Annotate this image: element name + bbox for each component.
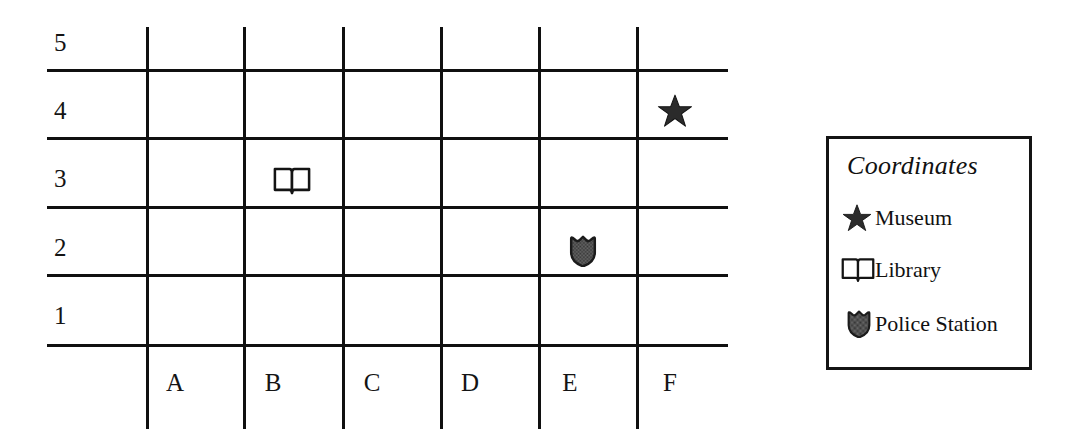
grid-line-vertical	[146, 27, 149, 429]
grid-line-vertical	[538, 27, 541, 429]
legend-label-police-station: Police Station	[875, 313, 998, 335]
legend-item-library: Library	[839, 253, 941, 287]
map-marker-police-station	[563, 233, 603, 273]
column-label-e: E	[550, 370, 590, 395]
book-icon	[839, 255, 875, 285]
coordinate-grid-map: 5 4 3 2 1 A B C D E F	[0, 0, 790, 442]
column-label-c: C	[352, 370, 392, 395]
legend-item-museum: Museum	[839, 201, 952, 235]
grid-line-horizontal	[47, 137, 728, 140]
legend-item-police-station: Police Station	[839, 307, 998, 341]
column-label-d: D	[450, 370, 490, 395]
grid-line-vertical	[342, 27, 345, 429]
column-label-f: F	[650, 370, 690, 395]
map-marker-museum	[655, 93, 695, 133]
map-marker-library	[272, 163, 312, 203]
grid-line-vertical	[243, 27, 246, 429]
row-label-5: 5	[54, 30, 80, 55]
grid-line-horizontal	[47, 274, 728, 277]
legend-title: Coordinates	[847, 153, 978, 179]
grid-line-horizontal	[47, 206, 728, 209]
legend-box: Coordinates Museum Library	[826, 136, 1032, 370]
grid-line-horizontal	[47, 344, 728, 347]
grid-line-vertical	[636, 27, 639, 429]
grid-line-vertical	[440, 27, 443, 429]
row-label-2: 2	[54, 235, 80, 260]
book-icon	[273, 166, 311, 200]
column-label-b: B	[253, 370, 293, 395]
legend-label-museum: Museum	[875, 207, 952, 229]
star-icon	[657, 93, 693, 133]
row-label-3: 3	[54, 166, 80, 191]
star-icon	[839, 203, 875, 233]
shield-icon	[569, 235, 597, 271]
legend-label-library: Library	[875, 259, 941, 281]
row-label-1: 1	[54, 303, 80, 328]
column-label-a: A	[155, 370, 195, 395]
row-label-4: 4	[54, 98, 80, 123]
grid-line-horizontal	[47, 69, 728, 72]
shield-icon	[839, 309, 875, 339]
